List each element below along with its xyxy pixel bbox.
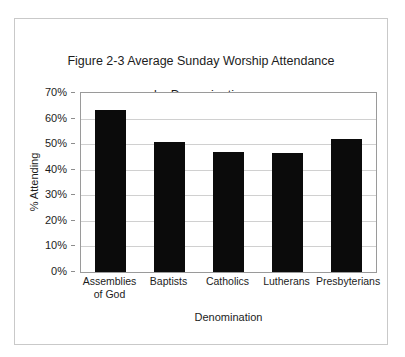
- plot-area: [80, 92, 377, 273]
- y-axis-tick-mark: [71, 169, 75, 170]
- x-axis-category-labels: Assemblies of GodBaptistsCatholicsLuther…: [80, 275, 377, 309]
- bar: [154, 142, 185, 272]
- x-axis-category-label: Assemblies of God: [80, 275, 139, 301]
- bar: [95, 110, 126, 272]
- x-axis-category-label: Presbyterians: [316, 275, 375, 288]
- figure-border: Figure 2-3 Average Sunday Worship Attend…: [14, 18, 388, 345]
- x-axis-category-label: Lutherans: [257, 275, 316, 288]
- y-axis-tick-mark: [71, 143, 75, 144]
- y-axis-tick-mark: [71, 92, 75, 93]
- y-axis-tick-label: 60%: [45, 112, 67, 124]
- y-axis-tick-mark: [71, 220, 75, 221]
- y-axis-tick-label: 10%: [45, 239, 67, 251]
- y-axis-tick-label: 50%: [45, 137, 67, 149]
- y-axis-tick-mark: [71, 271, 75, 272]
- bar-series: [81, 93, 376, 272]
- y-axis-tick-label: 30%: [45, 188, 67, 200]
- y-axis-tick-label: 40%: [45, 163, 67, 175]
- bar: [213, 152, 244, 272]
- bar: [331, 139, 362, 272]
- chart-title-line-1: Figure 2-3 Average Sunday Worship Attend…: [15, 53, 387, 70]
- y-axis-tick-label: 70%: [45, 86, 67, 98]
- y-axis-tick-labels: 70%60%50%40%30%20%10%0%: [15, 92, 75, 271]
- y-axis-tick-mark: [71, 194, 75, 195]
- y-axis-tick-mark: [71, 245, 75, 246]
- x-axis-title: Denomination: [80, 311, 377, 323]
- y-axis-tick-mark: [71, 118, 75, 119]
- y-axis-tick-label: 0%: [51, 265, 67, 277]
- x-axis-category-label: Baptists: [139, 275, 198, 288]
- x-axis-category-label: Catholics: [198, 275, 257, 288]
- bar: [272, 153, 303, 272]
- y-axis-tick-label: 20%: [45, 214, 67, 226]
